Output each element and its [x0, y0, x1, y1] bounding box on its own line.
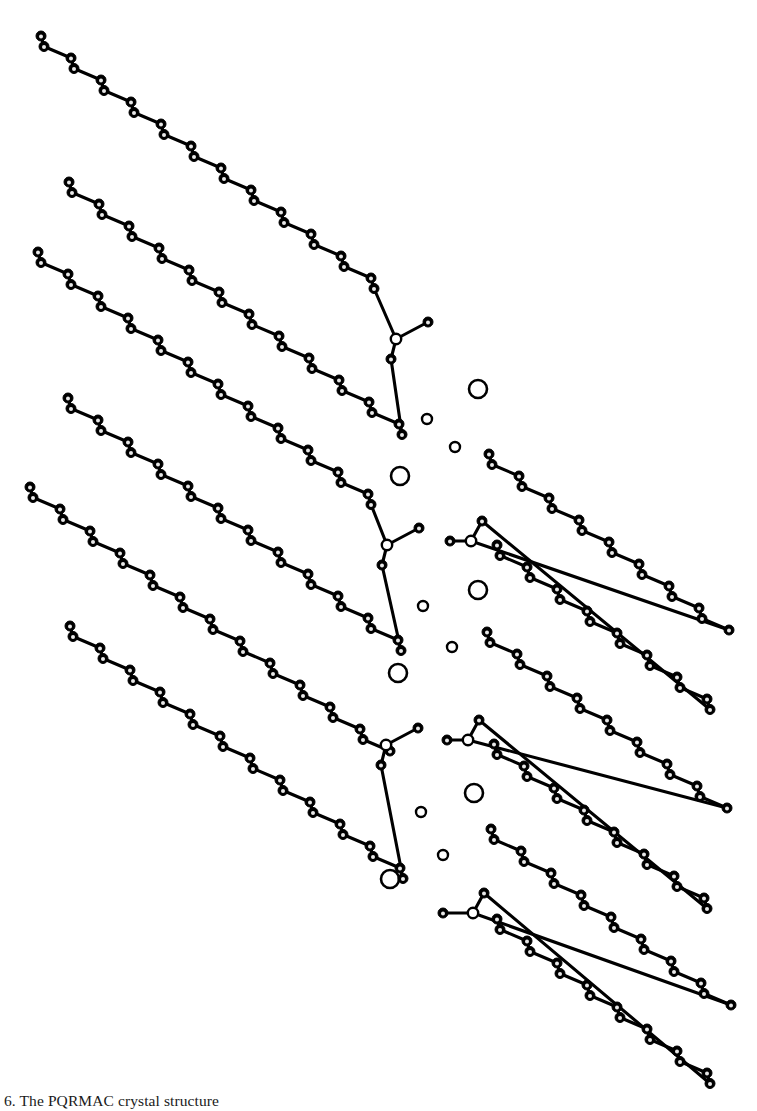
large-open-circle-site [465, 784, 483, 802]
head-atom-mol-R3 [468, 908, 478, 918]
atom-ellipsoid-highlight [28, 485, 32, 489]
atom-ellipsoid-highlight [672, 874, 676, 878]
atom-ellipsoid-highlight [558, 972, 562, 976]
atom-ellipsoid-highlight [678, 686, 682, 690]
atom-ellipsoid-highlight [580, 529, 584, 533]
atom-ellipsoid-highlight [298, 683, 302, 687]
atom-ellipsoid-highlight [217, 290, 221, 294]
atom-ellipsoid-highlight [477, 718, 481, 722]
atom-ellipsoid-highlight [99, 305, 103, 309]
atom-ellipsoid-highlight [588, 994, 592, 998]
atom-ellipsoid-highlight [121, 562, 125, 566]
atom-ellipsoid-highlight [550, 507, 554, 511]
atom-ellipsoid-highlight [129, 100, 133, 104]
atom-ellipsoid-highlight [699, 981, 703, 985]
atom-ellipsoid-highlight [181, 606, 185, 610]
atom-ellipsoid-highlight [88, 529, 92, 533]
atom-ellipsoid-highlight [725, 806, 729, 810]
atom-ellipsoid-highlight [216, 506, 220, 510]
atom-ellipsoid-highlight [645, 863, 649, 867]
atom-ellipsoid-highlight [130, 235, 134, 239]
atom-ellipsoid-highlight [618, 642, 622, 646]
atom-ellipsoid-highlight [648, 1038, 652, 1042]
atom-ellipsoid-highlight [637, 562, 641, 566]
atom-ellipsoid-highlight [249, 188, 253, 192]
atom-ellipsoid-highlight [667, 584, 671, 588]
atom-ellipsoid-highlight [487, 452, 491, 456]
atom-ellipsoid-highlight [492, 742, 496, 746]
atom-ellipsoid-highlight [132, 111, 136, 115]
atom-ellipsoid-highlight [159, 122, 163, 126]
atom-ellipsoid-highlight [577, 518, 581, 522]
atom-ellipsoid-highlight [218, 734, 222, 738]
atom-ellipsoid-highlight [249, 415, 253, 419]
atom-ellipsoid-highlight [729, 1003, 733, 1007]
atom-ellipsoid-highlight [67, 180, 71, 184]
atom-ellipsoid-highlight [248, 756, 252, 760]
atom-ellipsoid-highlight [401, 877, 405, 881]
atom-ellipsoid-highlight [480, 519, 484, 523]
atom-ellipsoid-highlight [342, 265, 346, 269]
atom-ellipsoid-highlight [370, 411, 374, 415]
atom-ellipsoid-highlight [99, 78, 103, 82]
atom-ellipsoid-highlight [251, 767, 255, 771]
atom-ellipsoid-highlight [339, 605, 343, 609]
atom-ellipsoid-highlight [582, 904, 586, 908]
atom-ellipsoid-highlight [708, 708, 712, 712]
atom-ellipsoid-highlight [96, 294, 100, 298]
atom-ellipsoid-highlight [340, 389, 344, 393]
atom-ellipsoid-highlight [417, 526, 421, 530]
atom-ellipsoid-highlight [328, 705, 332, 709]
atom-ellipsoid-highlight [645, 653, 649, 657]
atom-ellipsoid-highlight [515, 652, 519, 656]
atom-ellipsoid-highlight [70, 191, 74, 195]
atom-ellipsoid-highlight [727, 628, 731, 632]
atom-ellipsoid-highlight [672, 970, 676, 974]
atom-ellipsoid-highlight [615, 631, 619, 635]
atom-ellipsoid-highlight [588, 620, 592, 624]
head-atom-mol-L1 [391, 334, 401, 344]
atom-ellipsoid-highlight [186, 360, 190, 364]
atom-ellipsoid-highlight [399, 649, 403, 653]
atom-ellipsoid-highlight [618, 1016, 622, 1020]
atom-ellipsoid-highlight [358, 727, 362, 731]
atom-ellipsoid-highlight [68, 624, 72, 628]
atom-ellipsoid-highlight [220, 301, 224, 305]
atom-ellipsoid-highlight [675, 675, 679, 679]
atom-ellipsoid-highlight [97, 202, 101, 206]
atom-ellipsoid-highlight [222, 177, 226, 181]
atom-ellipsoid-highlight [695, 784, 699, 788]
atom-ellipsoid-highlight [585, 819, 589, 823]
atom-ellipsoid-highlight [279, 437, 283, 441]
atom-ellipsoid-highlight [579, 893, 583, 897]
atom-ellipsoid-highlight [306, 448, 310, 452]
atom-ellipsoid-highlight [675, 885, 679, 889]
atom-ellipsoid-highlight [605, 718, 609, 722]
atom-ellipsoid-highlight [612, 830, 616, 834]
atom-ellipsoid-highlight [118, 551, 122, 555]
atom-ellipsoid-highlight [249, 539, 253, 543]
atom-ellipsoid-highlight [585, 983, 589, 987]
atom-ellipsoid-highlight [489, 827, 493, 831]
atom-ellipsoid-highlight [208, 617, 212, 621]
atom-ellipsoid-highlight [488, 641, 492, 645]
atom-ellipsoid-highlight [548, 685, 552, 689]
atom-ellipsoid-highlight [528, 950, 532, 954]
atom-ellipsoid-highlight [338, 822, 342, 826]
atom-ellipsoid-highlight [246, 404, 250, 408]
atom-ellipsoid-highlight [638, 751, 642, 755]
atom-ellipsoid-highlight [192, 155, 196, 159]
atom-ellipsoid-highlight [39, 34, 43, 38]
small-open-circle-site [438, 850, 448, 860]
atom-ellipsoid-highlight [221, 745, 225, 749]
atom-ellipsoid-highlight [555, 797, 559, 801]
atom-ellipsoid-highlight [552, 786, 556, 790]
atom-ellipsoid-highlight [336, 594, 340, 598]
atom-ellipsoid-highlight [609, 915, 613, 919]
atom-ellipsoid-highlight [517, 474, 521, 478]
atom-ellipsoid-highlight [490, 463, 494, 467]
atom-ellipsoid-highlight [367, 400, 371, 404]
atom-ellipsoid-highlight [528, 576, 532, 580]
atom-ellipsoid-highlight [396, 638, 400, 642]
atom-ellipsoid-highlight [495, 917, 499, 921]
